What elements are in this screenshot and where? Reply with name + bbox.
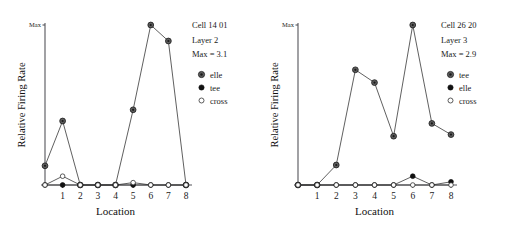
filled-circle-icon xyxy=(196,82,207,93)
data-point-cross xyxy=(148,183,153,188)
x-tick-label: 5 xyxy=(391,191,396,201)
open-circle-icon xyxy=(196,95,207,106)
filled-circle-icon xyxy=(410,174,415,179)
open-circle-icon xyxy=(334,183,339,188)
legend-label: tee xyxy=(459,70,469,80)
legend-left: elle tee cross xyxy=(196,68,227,107)
data-point-tee xyxy=(352,67,358,73)
open-circle-icon xyxy=(131,180,136,185)
open-circle-icon xyxy=(96,183,101,188)
circle-dot-icon xyxy=(445,69,456,80)
circle-dot-center-icon xyxy=(450,134,452,136)
open-circle-icon xyxy=(78,183,83,188)
legend-right: tee elle cross xyxy=(445,68,476,107)
x-tick-label: 4 xyxy=(113,191,118,201)
data-point-tee xyxy=(410,22,416,28)
legend-item: elle xyxy=(445,81,476,94)
circle-dot-center-icon xyxy=(335,164,337,166)
data-point-tee xyxy=(429,121,435,127)
open-circle-icon xyxy=(449,183,454,188)
data-point-tee xyxy=(448,132,454,138)
legend-label: elle xyxy=(210,70,222,80)
x-tick-label: 8 xyxy=(449,191,454,201)
x-tick-label: 3 xyxy=(353,191,358,201)
open-circle-icon xyxy=(391,183,396,188)
data-point-cross xyxy=(78,183,83,188)
data-point-elle xyxy=(60,118,66,124)
filled-circle-icon xyxy=(445,82,456,93)
circle-dot-center-icon xyxy=(354,69,356,71)
legend-item: cross xyxy=(445,94,476,107)
x-tick-label: 5 xyxy=(131,191,136,201)
data-point-cross xyxy=(60,174,65,179)
x-axis-title: Location xyxy=(96,205,136,217)
series-line-tee xyxy=(298,25,451,185)
x-tick-label: 7 xyxy=(166,191,171,201)
open-circle-icon xyxy=(113,183,118,188)
x-tick-label: 8 xyxy=(184,191,189,201)
open-circle-icon xyxy=(353,183,358,188)
data-point-cross xyxy=(184,183,189,188)
legend-label: tee xyxy=(210,83,220,93)
open-circle-icon xyxy=(315,183,320,188)
x-tick-label: 1 xyxy=(315,191,320,201)
legend-item: tee xyxy=(196,81,227,94)
series-line-elle xyxy=(45,25,186,185)
y-tick-label: Max xyxy=(29,21,42,28)
data-point-cross xyxy=(334,183,339,188)
legend-label: elle xyxy=(459,83,471,93)
x-tick-label: 6 xyxy=(148,191,153,201)
data-point-cross xyxy=(391,183,396,188)
annotation-left: Cell 14 01 Layer 2 Max = 3.1 xyxy=(192,18,227,62)
data-point-cross xyxy=(296,183,301,188)
open-circle-icon xyxy=(296,183,301,188)
circle-dot-center-icon xyxy=(412,24,414,26)
x-axis-title: Location xyxy=(355,205,395,217)
annotation-layer: Layer 3 xyxy=(441,33,476,48)
open-circle-icon xyxy=(410,183,415,188)
x-tick-label: 4 xyxy=(372,191,377,201)
x-tick-label: 2 xyxy=(78,191,83,201)
x-tick-label: 2 xyxy=(334,191,339,201)
data-point-elle xyxy=(130,107,136,113)
data-point-cross xyxy=(449,183,454,188)
data-point-cross xyxy=(131,180,136,185)
circle-dot-center-icon xyxy=(431,122,433,124)
open-circle-icon xyxy=(184,183,189,188)
open-circle-icon xyxy=(166,183,171,188)
data-point-tee xyxy=(333,162,339,168)
chart-panel-right: Max12345678LocationRelative Firing Rate … xyxy=(255,0,509,232)
data-point-cross xyxy=(353,183,358,188)
x-tick-label: 7 xyxy=(430,191,435,201)
data-point-cross xyxy=(113,183,118,188)
y-axis-title: Relative Firing Rate xyxy=(269,62,280,147)
data-point-elle xyxy=(410,174,415,179)
data-point-tee xyxy=(60,183,65,188)
data-point-cross xyxy=(166,183,171,188)
open-circle-icon xyxy=(445,95,456,106)
legend-item: tee xyxy=(445,68,476,81)
legend-label: cross xyxy=(459,96,476,106)
filled-circle-icon xyxy=(60,183,65,188)
annotation-layer: Layer 2 xyxy=(192,33,227,48)
data-point-elle xyxy=(165,38,171,44)
circle-dot-center-icon xyxy=(393,135,395,137)
legend-label: cross xyxy=(210,96,227,106)
open-circle-icon xyxy=(372,183,377,188)
x-tick-label: 6 xyxy=(410,191,415,201)
open-circle-icon xyxy=(43,183,48,188)
annotation-cell: Cell 26 20 xyxy=(441,18,476,33)
data-point-cross xyxy=(96,183,101,188)
data-point-cross xyxy=(430,183,435,188)
y-axis-title: Relative Firing Rate xyxy=(16,62,27,147)
open-circle-icon xyxy=(60,174,65,179)
annotation-right: Cell 26 20 Layer 3 Max = 2.9 xyxy=(441,18,476,62)
y-tick-label: Max xyxy=(282,21,295,28)
circle-dot-center-icon xyxy=(373,82,375,84)
figure-root: Max12345678LocationRelative Firing Rate … xyxy=(0,0,509,232)
annotation-max: Max = 3.1 xyxy=(192,47,227,62)
open-circle-icon xyxy=(430,183,435,188)
circle-dot-icon xyxy=(196,69,207,80)
data-point-tee xyxy=(372,80,378,86)
circle-dot-center-icon xyxy=(150,24,152,26)
